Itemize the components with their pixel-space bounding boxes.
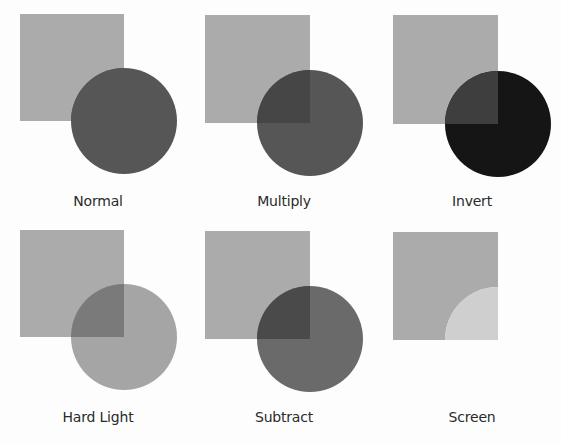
label-screen: Screen <box>449 409 496 425</box>
screen-shapes <box>0 0 561 444</box>
blend-modes-diagram: Normal Multiply Invert Hard Light Subtra… <box>0 0 561 444</box>
